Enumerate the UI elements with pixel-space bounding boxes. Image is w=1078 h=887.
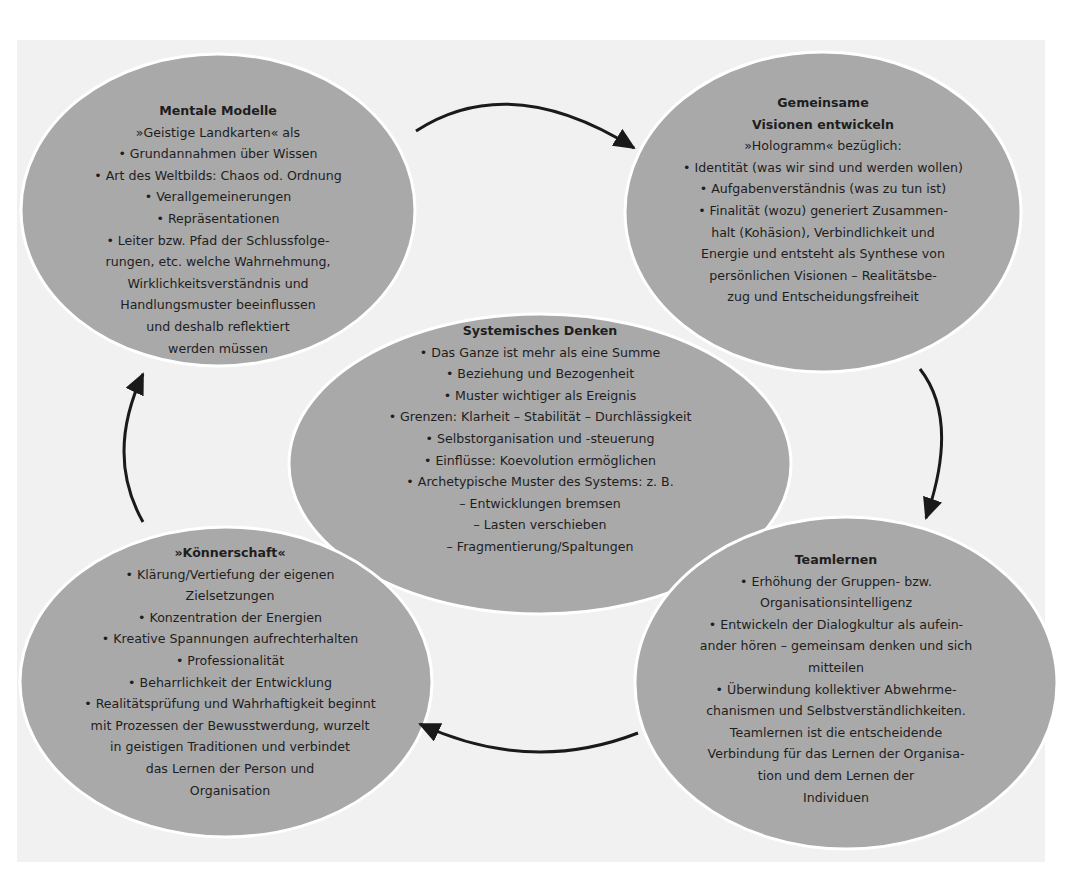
node-line: • Erhöhung der Gruppen- bzw. <box>700 571 972 593</box>
node-line: und deshalb reflektiert <box>94 316 341 338</box>
arrow-personal-mastery-to-mental-models <box>124 374 143 522</box>
node-systems-thinking: Systemisches Denken • Das Ganze ist mehr… <box>389 320 692 558</box>
node-line: »Hologramm« bezüglich: <box>683 135 963 157</box>
node-line: mit Prozessen der Bewusstwerdung, wurzel… <box>84 715 376 737</box>
node-line: Organisation <box>84 780 376 802</box>
node-line: Energie und entsteht als Synthese von <box>683 243 963 265</box>
node-line: werden müssen <box>94 338 341 360</box>
arrow-shared-vision-to-team-learning <box>920 369 942 518</box>
node-line: chanismen und Selbstverständlichkeiten. <box>700 700 972 722</box>
node-line: • Verallgemeinerungen <box>94 186 341 208</box>
node-shared-vision: Gemeinsame Visionen entwickeln »Hologram… <box>683 92 963 308</box>
node-title: Gemeinsame <box>683 92 963 114</box>
node-line: Organisationsintelligenz <box>700 592 972 614</box>
node-line: • Muster wichtiger als Ereignis <box>389 385 692 407</box>
node-line: • Grundannahmen über Wissen <box>94 143 341 165</box>
node-line: Handlungsmuster beeinflussen <box>94 294 341 316</box>
node-line: – Lasten verschieben <box>389 514 692 536</box>
node-line: • Identität (was wir sind und werden wol… <box>683 157 963 179</box>
node-line: tion und dem Lernen der <box>700 765 972 787</box>
node-line: das Lernen der Person und <box>84 758 376 780</box>
node-title: Mentale Modelle <box>94 100 341 122</box>
node-line: rungen, etc. welche Wahrnehmung, <box>94 251 341 273</box>
node-line: »Geistige Landkarten« als <box>94 122 341 144</box>
node-line: halt (Kohäsion), Verbindlichkeit und <box>683 222 963 244</box>
node-line: • Leiter bzw. Pfad der Schlussfolge- <box>94 230 341 252</box>
node-line: • Art des Weltbilds: Chaos od. Ordnung <box>94 165 341 187</box>
node-line: • Finalität (wozu) generiert Zusammen- <box>683 200 963 222</box>
node-line: • Selbstorganisation und -steuerung <box>389 428 692 450</box>
node-line: Individuen <box>700 787 972 809</box>
node-line: • Einflüsse: Koevolution ermöglichen <box>389 450 692 472</box>
node-title: Systemisches Denken <box>389 320 692 342</box>
node-title: »Könnerschaft« <box>84 542 376 564</box>
node-mental-models: Mentale Modelle »Geistige Landkarten« al… <box>94 100 341 359</box>
node-line: • Klärung/Vertiefung der eigenen <box>84 564 376 586</box>
node-line: Teamlernen ist die entscheidende <box>700 722 972 744</box>
node-line: • Aufgabenverständnis (was zu tun ist) <box>683 178 963 200</box>
node-line: in geistigen Traditionen und verbindet <box>84 736 376 758</box>
node-line: • Beharrlichkeit der Entwicklung <box>84 672 376 694</box>
node-line: • Archetypische Muster des Systems: z. B… <box>389 471 692 493</box>
node-line: • Realitätsprüfung und Wahrhaftigkeit be… <box>84 693 376 715</box>
node-line: • Grenzen: Klarheit – Stabilität – Durch… <box>389 406 692 428</box>
node-line: Wirklichkeitsverständnis und <box>94 273 341 295</box>
node-line: • Überwindung kollektiver Abwehrme- <box>700 679 972 701</box>
node-line: – Fragmentierung/Spaltungen <box>389 536 692 558</box>
node-line: – Entwicklungen bremsen <box>389 493 692 515</box>
arrow-mental-models-to-shared-vision <box>416 104 634 148</box>
node-line: • Professionalität <box>84 650 376 672</box>
node-line: • Konzentration der Energien <box>84 607 376 629</box>
node-title: Visionen entwickeln <box>683 114 963 136</box>
node-line: zug und Entscheidungsfreiheit <box>683 286 963 308</box>
node-line: mitteilen <box>700 657 972 679</box>
node-title: Teamlernen <box>700 549 972 571</box>
arrow-team-learning-to-personal-mastery <box>420 724 638 752</box>
node-team-learning: Teamlernen • Erhöhung der Gruppen- bzw. … <box>700 549 972 808</box>
node-line: • Entwickeln der Dialogkultur als aufein… <box>700 614 972 636</box>
node-line: persönlichen Visionen – Realitätsbe- <box>683 265 963 287</box>
node-line: Verbindung für das Lernen der Organisa- <box>700 743 972 765</box>
node-personal-mastery: »Könnerschaft« • Klärung/Vertiefung der … <box>84 542 376 801</box>
node-line: • Kreative Spannungen aufrechterhalten <box>84 628 376 650</box>
node-line: ander hören – gemeinsam denken und sich <box>700 635 972 657</box>
node-line: • Beziehung und Bezogenheit <box>389 363 692 385</box>
node-line: • Das Ganze ist mehr als eine Summe <box>389 342 692 364</box>
node-line: Zielsetzungen <box>84 585 376 607</box>
node-line: • Repräsentationen <box>94 208 341 230</box>
